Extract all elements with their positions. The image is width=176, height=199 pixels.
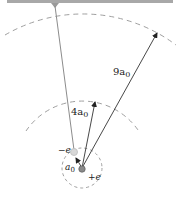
outer-orbit-arc [5,14,176,45]
outer-radius-arrow [82,33,157,168]
electron-charge-label: −e [58,145,71,155]
inner-radius-label: a0 [65,162,75,174]
ceiling-bar [7,0,173,3]
nucleus-charge-label: +e [88,172,101,182]
middle-radius-label: 4a0 [71,106,88,119]
electron [71,149,78,156]
outer-radius-label: 9a0 [113,66,130,79]
nucleus [79,166,85,172]
atom-pendulum-diagram: 9a0 4a0 a0 −e +e [0,0,176,199]
pendulum-string [55,6,74,150]
